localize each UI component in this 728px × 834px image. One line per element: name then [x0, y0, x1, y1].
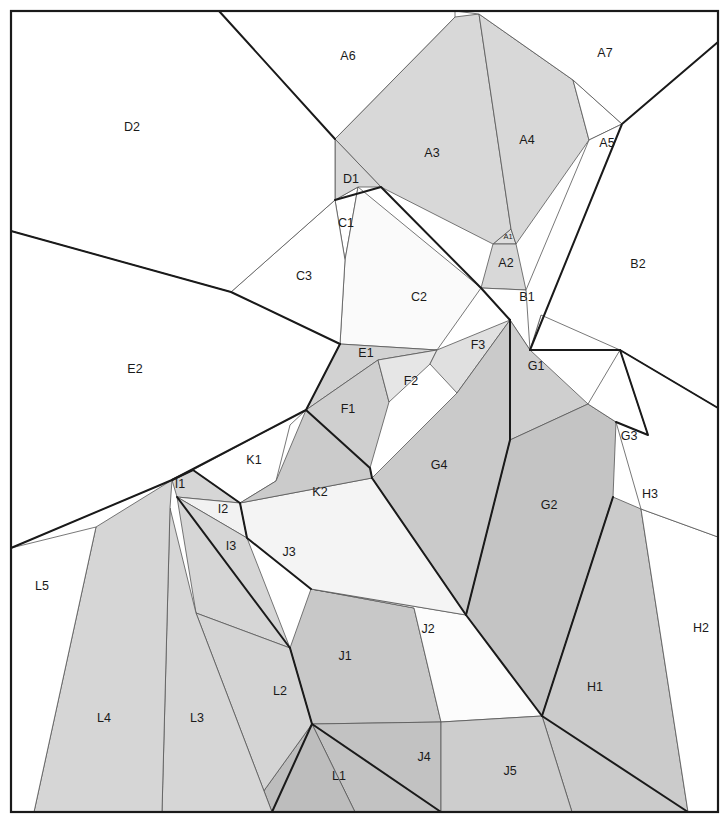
region-layer — [11, 11, 718, 812]
figure-canvas: A1A2A3A4A5A6A7B1B2C1C2C3D1D2E1E2F1F2F3G1… — [0, 0, 728, 834]
region-a2[interactable] — [481, 244, 526, 290]
polygon-region-map: A1A2A3A4A5A6A7B1B2C1C2C3D1D2E1E2F1F2F3G1… — [0, 0, 728, 834]
